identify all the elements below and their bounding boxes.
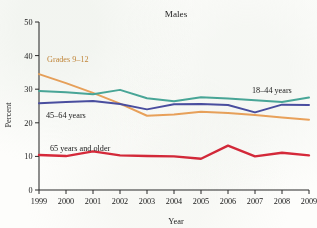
series-inline-labels: Grades 9–1218–44 years45–64 years65 year… [46,55,292,153]
x-tick-label: 2003 [139,197,155,206]
x-tick-label: 2005 [193,197,209,206]
x-tick-label: 2007 [247,197,263,206]
y-axis-tick-labels: 01020304050 [24,18,32,195]
series-label-65-years-and-older: 65 years and older [50,144,111,153]
y-tick-label: 20 [24,119,32,128]
x-tick-label: 2001 [85,197,101,206]
x-tick-label: 2002 [112,197,128,206]
series-label-45-64-years: 45–64 years [46,111,86,120]
line-chart: 01020304050 1999200020012002200320042005… [0,0,317,228]
chart-title: Males [165,9,188,19]
series-label-grades-9-12: Grades 9–12 [47,55,89,64]
x-tick-label: 1999 [31,197,47,206]
x-tick-label: 2006 [220,197,236,206]
y-tick-label: 30 [24,85,32,94]
chart-figure: 01020304050 1999200020012002200320042005… [0,0,317,228]
y-tick-label: 50 [24,18,32,27]
x-axis-tick-labels: 1999200020012002200320042005200620072008… [31,197,317,206]
x-axis-title: Year [168,217,184,226]
x-axis-ticks [39,190,309,194]
y-tick-label: 40 [24,52,32,61]
series-label-18-44-years: 18–44 years [252,86,292,95]
x-tick-label: 2004 [166,197,182,206]
x-tick-label: 2008 [274,197,290,206]
x-tick-label: 2009 [301,197,317,206]
x-tick-label: 2000 [58,197,74,206]
y-tick-label: 0 [28,186,32,195]
y-tick-label: 10 [24,152,32,161]
y-axis-title: Percent [4,102,13,128]
y-axis-ticks [35,22,39,190]
